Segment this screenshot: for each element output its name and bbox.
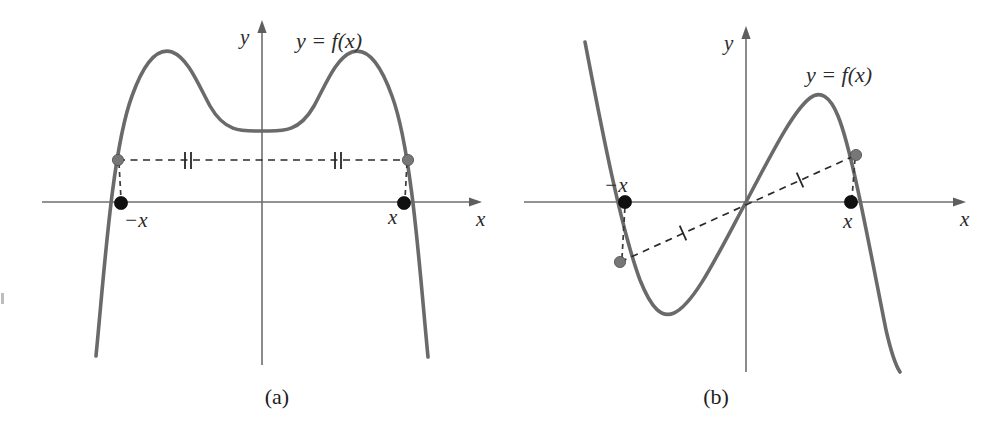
function-label-a: y = f(x) bbox=[294, 28, 362, 53]
figure-root: y x y = f(x) bbox=[0, 0, 992, 430]
tick-mark-right-double bbox=[335, 152, 341, 169]
curve-point-right-a bbox=[402, 154, 413, 165]
panel-a-even-function: y x y = f(x) bbox=[0, 0, 496, 430]
tick-mark-left-single bbox=[680, 226, 687, 241]
x-axis-arrowhead bbox=[469, 197, 482, 206]
x-axis-label: x bbox=[475, 207, 486, 231]
curve-point-left-a bbox=[112, 154, 123, 165]
equal-magnitude-connector-b bbox=[620, 155, 856, 262]
slanted-dashed-line bbox=[620, 155, 856, 262]
axis-point-right-a bbox=[397, 196, 410, 209]
point-label-minus-x-a: −x bbox=[124, 208, 148, 232]
point-label-minus-x-b: −x bbox=[604, 173, 628, 197]
y-axis-label: y bbox=[238, 25, 250, 49]
tick-mark-left-double bbox=[185, 152, 191, 169]
x-axis-label: x bbox=[959, 207, 970, 231]
function-label-b: y = f(x) bbox=[804, 62, 872, 87]
tick-mark-right-single bbox=[797, 173, 804, 188]
y-axis-label: y bbox=[722, 31, 734, 55]
axis-point-right-b bbox=[844, 195, 857, 208]
panel-a-svg: y x y = f(x) bbox=[0, 0, 496, 430]
y-axis-group-a bbox=[257, 20, 266, 365]
caption-a: (a) bbox=[265, 384, 289, 409]
drop-line-left-a bbox=[119, 163, 121, 199]
curve-point-left-b bbox=[614, 256, 625, 267]
caption-b: (b) bbox=[703, 384, 729, 409]
panel-b-svg: y x y = f(x) bbox=[496, 0, 992, 430]
point-label-x-b: x bbox=[842, 209, 853, 233]
y-axis-arrowhead bbox=[257, 20, 266, 33]
axis-point-left-b bbox=[618, 195, 631, 208]
equal-height-connector-a bbox=[118, 152, 408, 169]
panel-b-odd-function: y x y = f(x) bbox=[496, 0, 992, 430]
x-axis-arrowhead bbox=[953, 197, 966, 206]
point-label-x-a: x bbox=[387, 205, 398, 229]
y-axis-arrowhead bbox=[741, 26, 750, 39]
curve-point-right-b bbox=[850, 149, 861, 160]
